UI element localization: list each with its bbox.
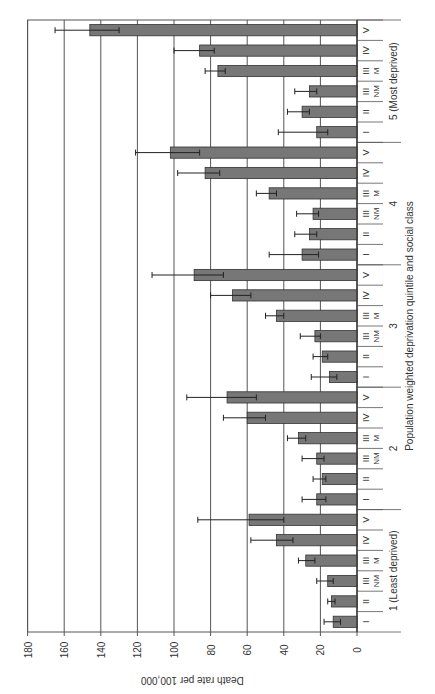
y-tick-label: 40 xyxy=(279,644,290,656)
class-label: V xyxy=(361,150,371,156)
class-label: I xyxy=(361,253,371,256)
class-sublabel: M xyxy=(372,435,381,442)
bar xyxy=(218,65,357,76)
bar xyxy=(269,188,357,199)
class-label: I xyxy=(361,376,371,379)
y-tick-label: 0 xyxy=(352,647,363,653)
y-axis-title: Death rate per 100,000 xyxy=(140,675,243,686)
y-tick-label: 80 xyxy=(206,644,217,656)
class-sublabel: NM xyxy=(372,207,381,220)
class-label: IV xyxy=(361,46,371,55)
class-label: II xyxy=(361,599,371,604)
class-label: III xyxy=(361,67,371,75)
class-label: II xyxy=(361,354,371,359)
class-sublabel: NM xyxy=(372,452,381,465)
rotated-bar-chart: 020406080100120140160180Death rate per 1… xyxy=(0,0,435,694)
bar xyxy=(90,25,357,36)
bar xyxy=(315,331,357,342)
group-label: 2 xyxy=(388,445,399,451)
bar xyxy=(298,433,357,444)
bar xyxy=(322,473,357,484)
bar xyxy=(313,208,357,219)
class-label: II xyxy=(361,476,371,481)
group-label: 3 xyxy=(388,323,399,329)
class-label: V xyxy=(361,27,371,33)
class-label: III xyxy=(361,312,371,320)
class-label: III xyxy=(361,557,371,565)
class-label: IV xyxy=(361,536,371,545)
bar xyxy=(200,45,357,56)
class-label: I xyxy=(361,498,371,501)
bar xyxy=(205,167,357,178)
class-label: III xyxy=(361,455,371,463)
class-sublabel: M xyxy=(372,557,381,564)
class-label: IV xyxy=(361,169,371,178)
y-tick-label: 60 xyxy=(242,644,253,656)
class-label: V xyxy=(361,272,371,278)
class-label: III xyxy=(361,88,371,96)
class-sublabel: M xyxy=(372,312,381,319)
class-sublabel: M xyxy=(372,67,381,74)
class-label: V xyxy=(361,394,371,400)
group-label: 1 (Least deprived) xyxy=(388,530,399,611)
x-axis-title: Population weighted deprivation quintile… xyxy=(404,201,415,451)
y-tick-label: 120 xyxy=(132,641,143,658)
class-label: III xyxy=(361,577,371,585)
class-label: III xyxy=(361,434,371,442)
class-label: IV xyxy=(361,291,371,300)
bar xyxy=(276,310,357,321)
y-tick-label: 100 xyxy=(169,641,180,658)
y-tick-label: 180 xyxy=(23,641,34,658)
class-sublabel: NM xyxy=(372,574,381,587)
class-label: I xyxy=(361,621,371,624)
class-label: II xyxy=(361,232,371,237)
class-sublabel: NM xyxy=(372,85,381,98)
class-label: III xyxy=(361,210,371,218)
class-sublabel: NM xyxy=(372,330,381,343)
class-label: II xyxy=(361,109,371,114)
y-tick-label: 20 xyxy=(315,644,326,656)
bar xyxy=(302,106,357,117)
group-label: 5 (Most deprived) xyxy=(388,42,399,120)
class-label: IV xyxy=(361,414,371,423)
y-tick-label: 160 xyxy=(59,641,70,658)
class-label: III xyxy=(361,190,371,198)
class-sublabel: M xyxy=(372,190,381,197)
group-label: 4 xyxy=(388,200,399,206)
class-label: III xyxy=(361,332,371,340)
class-label: I xyxy=(361,131,371,134)
class-label: V xyxy=(361,517,371,523)
y-tick-label: 140 xyxy=(96,641,107,658)
